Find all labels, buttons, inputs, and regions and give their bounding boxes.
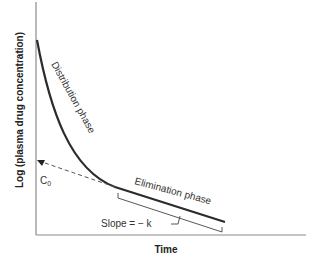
- arrow-head-icon: [37, 160, 45, 166]
- y-axis-label: Log (plasma drug concentration): [14, 32, 25, 188]
- distribution-phase-label: Distribution phase: [49, 60, 98, 136]
- pk-diagram: Log (plasma drug concentration) Time Dis…: [0, 0, 320, 263]
- elimination-phase-label: Elimination phase: [133, 175, 213, 206]
- slope-label: Slope = − k: [101, 218, 153, 229]
- extrapolation-line: [42, 162, 115, 187]
- x-axis-label: Time: [154, 244, 178, 255]
- c0-label: C0: [40, 175, 51, 187]
